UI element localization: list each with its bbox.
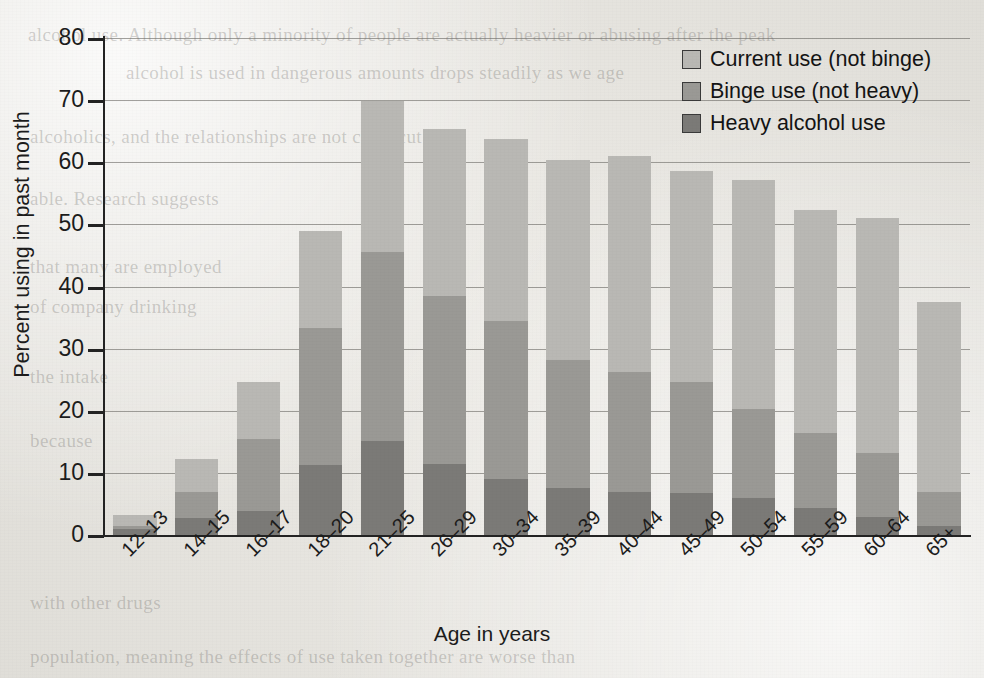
legend-item-label: Binge use (not heavy) [710, 79, 919, 104]
bar-segment-binge [546, 360, 589, 488]
y-axis-tick [88, 38, 104, 41]
y-axis-tick-label: 30 [0, 337, 84, 360]
y-axis-tick [88, 473, 104, 476]
legend-item-label: Current use (not binge) [710, 47, 931, 72]
y-axis-tick-label: 40 [0, 275, 84, 298]
legend-swatch-icon [682, 82, 701, 101]
bar-45-49[interactable] [670, 171, 713, 535]
bar-30-34[interactable] [484, 139, 527, 535]
bar-segment-current [608, 156, 651, 372]
bar-65+[interactable] [917, 302, 960, 535]
bar-35-39[interactable] [546, 160, 589, 535]
y-axis-tick-label: 80 [0, 26, 84, 49]
legend-swatch-icon [682, 50, 701, 69]
bar-segment-current [670, 171, 713, 382]
bar-segment-current [732, 180, 775, 409]
y-axis-tick [88, 411, 104, 414]
bar-segment-current [917, 302, 960, 491]
stacked-bar-chart: Percent using in past month Age in years… [0, 0, 984, 678]
gridline [104, 349, 970, 350]
gridline [104, 162, 970, 163]
bar-50-54[interactable] [732, 180, 775, 535]
chart-page: alcohol use. Although only a minority of… [0, 0, 984, 678]
bar-segment-binge [423, 296, 466, 464]
bar-26-29[interactable] [423, 129, 466, 535]
bar-40-44[interactable] [608, 156, 651, 535]
gridline [104, 473, 970, 474]
bar-segment-current [237, 382, 280, 440]
bar-segment-current [794, 210, 837, 433]
bar-segment-binge [732, 409, 775, 498]
y-axis-tick-label: 20 [0, 399, 84, 422]
bar-60-64[interactable] [856, 218, 899, 535]
bar-segment-binge [299, 328, 342, 465]
bar-21-25[interactable] [361, 101, 404, 535]
y-axis-tick-label: 60 [0, 150, 84, 173]
legend-item[interactable]: Current use (not binge) [682, 44, 978, 74]
x-axis-title: Age in years [0, 622, 984, 646]
gridline [104, 38, 970, 39]
bar-segment-current [299, 231, 342, 328]
y-axis-tick-label: 0 [0, 523, 84, 546]
bar-55-59[interactable] [794, 210, 837, 535]
y-axis-tick [88, 535, 104, 538]
legend-item[interactable]: Heavy alcohol use [682, 108, 978, 138]
bar-segment-binge [484, 321, 527, 479]
y-axis-tick [88, 349, 104, 352]
bar-segment-binge [856, 453, 899, 517]
y-axis-tick-label: 10 [0, 461, 84, 484]
legend-swatch-icon [682, 114, 701, 133]
bar-segment-binge [361, 252, 404, 441]
y-axis-tick [88, 287, 104, 290]
bar-segment-binge [237, 439, 280, 511]
bar-segment-binge [670, 382, 713, 493]
y-axis-tick [88, 162, 104, 165]
bar-segment-current [856, 218, 899, 453]
y-axis-tick-label: 50 [0, 212, 84, 235]
chart-legend: Current use (not binge)Binge use (not he… [682, 44, 978, 140]
bar-segment-current [361, 101, 404, 251]
bar-18-20[interactable] [299, 231, 342, 535]
bar-segment-binge [917, 492, 960, 527]
y-axis-tick [88, 100, 104, 103]
gridline [104, 287, 970, 288]
bar-segment-binge [608, 372, 651, 491]
bar-segment-current [484, 139, 527, 322]
gridline [104, 411, 970, 412]
legend-item-label: Heavy alcohol use [710, 111, 886, 136]
bar-segment-binge [794, 433, 837, 508]
x-axis-line [103, 535, 971, 537]
bar-segment-current [546, 160, 589, 360]
y-axis-tick-label: 70 [0, 88, 84, 111]
y-axis-tick [88, 224, 104, 227]
bar-segment-current [423, 129, 466, 295]
legend-item[interactable]: Binge use (not heavy) [682, 76, 978, 106]
bar-segment-current [175, 459, 218, 491]
gridline [104, 224, 970, 225]
